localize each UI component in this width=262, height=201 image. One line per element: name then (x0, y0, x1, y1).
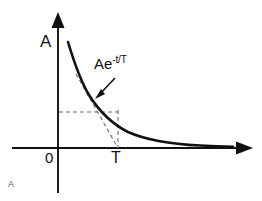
figure-tag-label: A (8, 180, 14, 189)
curve-equation-exponent: -t/T (112, 54, 126, 65)
curve-equation-label: Ae-t/T (94, 55, 127, 71)
curve-equation-base: Ae (94, 55, 112, 72)
plot-canvas (0, 0, 262, 201)
y-axis-amplitude-label: A (40, 33, 51, 50)
initial-tangent-dashed (76, 74, 118, 148)
origin-label: 0 (45, 150, 53, 165)
x-axis-arrowhead (236, 142, 253, 155)
y-axis-arrowhead (52, 12, 65, 28)
exponential-decay-curve (68, 42, 233, 147)
x-axis-time-constant-label: T (111, 150, 121, 166)
exponential-decay-figure: A 0 T Ae-t/T A (0, 0, 262, 201)
